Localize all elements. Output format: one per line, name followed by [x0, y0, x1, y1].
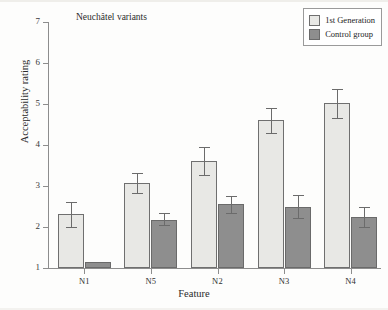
bar-n5-control [151, 220, 177, 268]
y-axis-tick-label: 6 [16, 57, 40, 67]
y-axis-line [48, 22, 49, 269]
chart-legend: 1st Generation Control group [303, 8, 382, 46]
y-axis-tick [43, 186, 48, 187]
error-bar-n5-gen1 [137, 173, 138, 194]
x-axis-tick [218, 269, 219, 274]
y-axis-tick [43, 22, 48, 23]
bar-n5-gen1 [124, 183, 150, 268]
x-axis-line [48, 268, 381, 269]
error-bar-n3-control [298, 195, 299, 218]
x-axis-tick [284, 269, 285, 274]
error-bar-cap-lower [66, 227, 77, 228]
y-axis-tick-label: 4 [16, 139, 40, 149]
figure-canvas: Neuchâtel variants 1st Generation Contro… [0, 0, 388, 310]
error-bar-cap-lower [199, 175, 210, 176]
y-axis-tick [43, 63, 48, 64]
error-bar-cap-upper [293, 195, 304, 196]
legend-item-control: Control group [309, 27, 375, 41]
error-bar-n1-gen1 [71, 202, 72, 227]
error-bar-cap-lower [293, 218, 304, 219]
bar-n2-gen1 [191, 161, 217, 268]
error-bar-n4-gen1 [337, 89, 338, 118]
y-axis-tick-label: 3 [16, 180, 40, 190]
y-axis-tick [43, 268, 48, 269]
x-axis-tick-label: N3 [264, 276, 304, 286]
figure-top-edge [0, 0, 388, 2]
y-axis-tick [43, 227, 48, 228]
error-bar-cap-upper [359, 207, 370, 208]
y-axis-tick-label: 2 [16, 221, 40, 231]
x-axis-tick-label: N4 [331, 276, 371, 286]
legend-item-gen1: 1st Generation [309, 13, 375, 27]
x-axis-tick [151, 269, 152, 274]
error-bar-n5-control [164, 213, 165, 224]
error-bar-cap-lower [226, 213, 237, 214]
error-bar-cap-upper [199, 147, 210, 148]
y-axis-tick-label: 5 [16, 98, 40, 108]
x-axis-tick [84, 269, 85, 274]
error-bar-n2-control [231, 196, 232, 212]
error-bar-cap-upper [66, 202, 77, 203]
legend-label-control: Control group [325, 29, 373, 39]
chart-title: Neuchâtel variants [76, 12, 147, 22]
legend-label-gen1: 1st Generation [325, 15, 375, 25]
bar-n4-gen1 [324, 103, 350, 268]
error-bar-cap-upper [159, 213, 170, 214]
legend-swatch-control-icon [309, 29, 320, 40]
error-bar-cap-upper [132, 173, 143, 174]
error-bar-cap-lower [359, 227, 370, 228]
x-axis-title: Feature [0, 288, 388, 299]
y-axis-tick [43, 145, 48, 146]
y-axis-tick-label: 7 [16, 16, 40, 26]
error-bar-cap-lower [266, 133, 277, 134]
error-bar-n3-gen1 [271, 108, 272, 133]
error-bar-cap-upper [266, 108, 277, 109]
error-bar-cap-upper [332, 89, 343, 90]
x-axis-tick-label: N1 [64, 276, 104, 286]
bar-n3-gen1 [258, 120, 284, 268]
y-axis-tick [43, 104, 48, 105]
error-bar-cap-lower [159, 225, 170, 226]
error-bar-n2-gen1 [204, 147, 205, 175]
legend-swatch-gen1-icon [309, 15, 320, 26]
error-bar-cap-lower [332, 118, 343, 119]
error-bar-n4-control [364, 207, 365, 228]
x-axis-tick-label: N5 [131, 276, 171, 286]
x-axis-tick-label: N2 [198, 276, 238, 286]
x-axis-tick [351, 269, 352, 274]
error-bar-cap-upper [226, 196, 237, 197]
bar-n2-control [218, 204, 244, 268]
error-bar-cap-lower [132, 193, 143, 194]
y-axis-tick-label: 1 [16, 262, 40, 272]
bar-n1-control [85, 262, 111, 268]
